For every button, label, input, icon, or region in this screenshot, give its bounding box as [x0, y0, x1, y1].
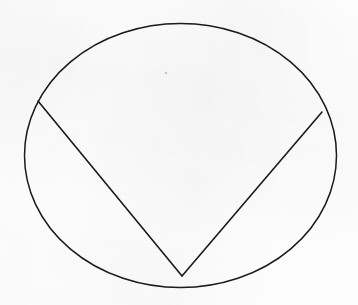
scan-speck — [165, 72, 167, 74]
left-chord — [38, 101, 182, 276]
right-chord — [182, 112, 322, 276]
circle-outline — [25, 24, 337, 288]
geometric-drawing-canvas — [0, 0, 358, 305]
figure-page — [0, 0, 358, 305]
